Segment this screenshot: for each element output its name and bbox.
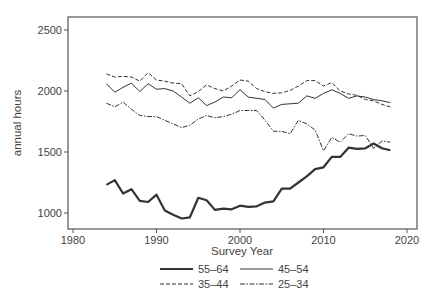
x-tick-label: 1990 <box>144 234 168 246</box>
series-line-45-54 <box>106 83 390 108</box>
series-line-35-44 <box>106 73 390 107</box>
x-axis-title: Survey Year <box>211 245 273 257</box>
legend-label: 25–34 <box>278 278 309 290</box>
series-line-55-64 <box>106 144 390 219</box>
y-tick-label: 1000 <box>38 207 62 219</box>
y-axis-title: annual hours <box>11 90 23 157</box>
plot-area <box>106 73 390 219</box>
y-tick-label: 1500 <box>38 146 62 158</box>
legend-label: 35–44 <box>198 278 229 290</box>
line-chart: 19801990200020102020 1000150020002500 Su… <box>0 0 438 305</box>
y-axis-ticks: 1000150020002500 <box>38 24 68 219</box>
y-tick-label: 2000 <box>38 85 62 97</box>
axes <box>68 17 417 229</box>
legend-label: 55–64 <box>198 263 229 275</box>
x-tick-label: 1980 <box>61 234 85 246</box>
series-line-25-34 <box>106 102 390 151</box>
legend-label: 45–54 <box>278 263 309 275</box>
x-tick-label: 2010 <box>311 234 335 246</box>
plot-frame <box>68 17 417 229</box>
x-tick-label: 2020 <box>395 234 419 246</box>
y-tick-label: 2500 <box>38 24 62 36</box>
x-axis-ticks: 19801990200020102020 <box>61 229 419 246</box>
legend: 55–6445–5435–4425–34 <box>160 263 309 290</box>
